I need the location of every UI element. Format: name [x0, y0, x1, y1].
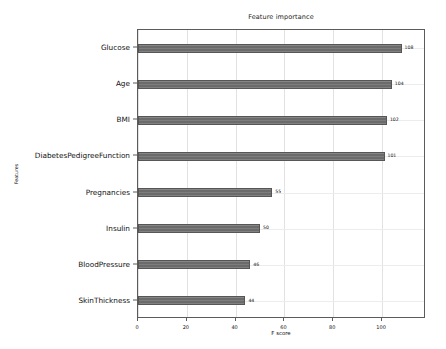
plot-area: 10810410210155504644 [137, 29, 425, 318]
bar-value-label: 108 [405, 46, 414, 51]
bar[interactable] [138, 152, 385, 161]
x-tick-mark [137, 318, 138, 321]
bar-row[interactable]: 46 [138, 252, 259, 278]
y-axis-tick-labels: GlucoseAgeBMIDiabetesPedigreeFunctionPre… [0, 29, 135, 318]
bar-row[interactable]: 50 [138, 216, 269, 242]
bar[interactable] [138, 296, 245, 305]
bar[interactable] [138, 44, 402, 53]
bar-value-label: 55 [275, 190, 281, 195]
y-tick-label-pregnancies: Pregnancies [86, 187, 130, 196]
x-tick-mark [235, 318, 236, 321]
chart-title: Feature importance [137, 13, 425, 21]
bar-row[interactable]: 101 [138, 143, 396, 169]
y-tick-label-insulin: Insulin [106, 223, 130, 232]
bar[interactable] [138, 260, 250, 269]
bar-series: 10810410210155504644 [138, 30, 424, 317]
bar-row[interactable]: 102 [138, 107, 399, 133]
x-tick-mark [283, 318, 284, 321]
bar-value-label: 46 [253, 263, 259, 268]
y-tick-label-age: Age [116, 79, 130, 88]
bar-row[interactable]: 108 [138, 35, 413, 61]
y-tick-label-bloodpressure: BloodPressure [78, 259, 130, 268]
bar-value-label: 44 [248, 299, 254, 304]
bar-value-label: 104 [395, 82, 404, 87]
bar-value-label: 102 [390, 118, 399, 123]
bar[interactable] [138, 80, 392, 89]
bar-row[interactable]: 104 [138, 71, 404, 97]
bar-value-label: 101 [388, 154, 397, 159]
bar-value-label: 50 [263, 226, 269, 231]
x-tick-mark [332, 318, 333, 321]
y-tick-label-bmi: BMI [117, 115, 130, 124]
y-tick-label-glucose: Glucose [101, 43, 130, 52]
x-tick-mark [381, 318, 382, 321]
bar[interactable] [138, 116, 387, 125]
x-axis-label: F score [137, 330, 425, 336]
bar[interactable] [138, 224, 260, 233]
y-tick-label-diabetespedigreefunction: DiabetesPedigreeFunction [35, 151, 130, 160]
feature-importance-chart: Feature importance Features GlucoseAgeBM… [0, 0, 446, 349]
bar-row[interactable]: 44 [138, 288, 254, 314]
bar[interactable] [138, 188, 272, 197]
x-tick-mark [186, 318, 187, 321]
y-tick-label-skinthickness: SkinThickness [78, 295, 130, 304]
bar-row[interactable]: 55 [138, 180, 281, 206]
